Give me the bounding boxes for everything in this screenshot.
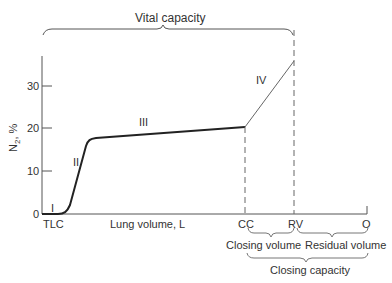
x-axis-label: Lung volume, L	[110, 219, 185, 230]
phase-iv-line	[245, 61, 294, 127]
rv-label: RV	[288, 219, 303, 230]
tlc-label: TLC	[43, 219, 64, 230]
phase-iii-label: III	[139, 117, 148, 128]
vital-capacity-label: Vital capacity	[135, 12, 205, 24]
ytick-label-30: 30	[27, 81, 39, 92]
closing-volume-label: Closing volume	[226, 240, 301, 251]
closing-capacity-brace	[247, 253, 368, 262]
residual-volume-label: Residual volume	[305, 240, 386, 251]
ytick-label-20: 20	[27, 123, 39, 134]
y-axis-label: N2, %	[8, 124, 22, 152]
phase-ii-label: II	[73, 157, 79, 168]
ytick-label-10: 10	[27, 166, 39, 177]
phase-i-label: I	[51, 203, 54, 214]
closing-capacity-label: Closing capacity	[270, 265, 350, 276]
ytick-label-0: 0	[33, 209, 39, 220]
cc-label: CC	[238, 219, 254, 230]
o-label: O	[362, 219, 371, 230]
washout-curve	[42, 127, 245, 214]
vital-capacity-brace	[43, 25, 293, 35]
phase-iv-label: IV	[256, 75, 266, 86]
residual-volume-brace	[297, 228, 368, 237]
